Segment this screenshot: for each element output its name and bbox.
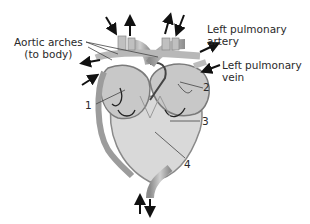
label-line: Left pulmonary: [207, 23, 287, 35]
diagram-stage: Aortic arches (to body) Left pulmonary a…: [0, 0, 310, 224]
label-line: vein: [222, 71, 302, 83]
label-line: artery: [207, 35, 287, 47]
number-label-3: 3: [202, 115, 209, 127]
label-line: Aortic arches: [14, 36, 83, 48]
right-atrium: [101, 65, 150, 118]
number-label-1: 1: [85, 99, 92, 111]
label-aortic-arches: Aortic arches (to body): [14, 36, 83, 60]
number-label-4: 4: [184, 158, 191, 170]
label-left-pulmonary-artery: Left pulmonary artery: [207, 23, 287, 47]
label-line: Left pulmonary: [222, 59, 302, 71]
number-label-2: 2: [203, 81, 210, 93]
label-line: (to body): [14, 48, 83, 60]
label-left-pulmonary-vein: Left pulmonary vein: [222, 59, 302, 83]
